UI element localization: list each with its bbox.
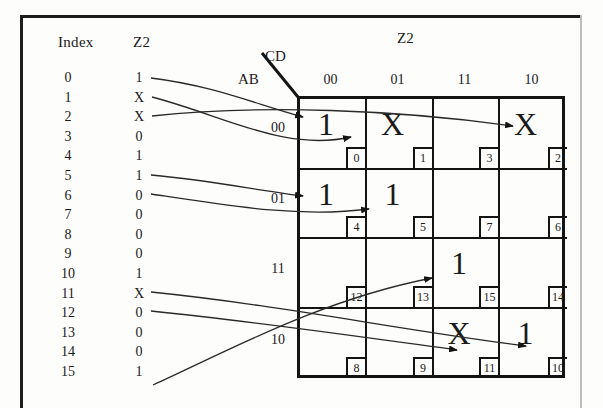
kmap-cell-minterm: 7 — [479, 216, 498, 237]
index-table-row: 2X — [45, 107, 175, 127]
index-value: 0 — [131, 127, 147, 147]
kmap-cell-minterm: 12 — [346, 286, 365, 307]
index-table-row: 30 — [45, 127, 175, 147]
kmap-cell: 3 — [433, 99, 500, 170]
kmap-column-header: 11 — [431, 72, 498, 88]
kmap-row-header: 01 — [265, 191, 291, 207]
index-value: 1 — [131, 146, 147, 166]
index-value: 0 — [131, 205, 147, 225]
index-table-row: 80 — [45, 225, 175, 245]
index-number: 13 — [45, 323, 91, 343]
index-number: 15 — [45, 362, 91, 382]
index-table-row: 90 — [45, 244, 175, 264]
figure-page: Index Z2 011X2X3041516070809010111X12013… — [0, 0, 603, 408]
kmap-title: Z2 — [397, 30, 414, 47]
kmap-cell: 9 — [367, 308, 434, 379]
kmap-row-variable-label: AB — [238, 71, 259, 88]
kmap-cell: 8 — [300, 308, 367, 379]
kmap-column-header: 00 — [297, 72, 364, 88]
index-number: 5 — [45, 166, 91, 186]
kmap-cell-minterm: 1 — [413, 147, 432, 168]
kmap-cell: 14 — [500, 238, 567, 309]
index-table-row: 120 — [45, 303, 175, 323]
kmap-cell-minterm: 10 — [548, 357, 567, 378]
kmap-row-header: 11 — [265, 261, 291, 277]
kmap-cell: 10 — [300, 99, 367, 170]
index-value: 1 — [131, 68, 147, 88]
kmap-cell-minterm: 14 — [548, 286, 567, 307]
index-table-body: 011X2X3041516070809010111X120130140151 — [45, 68, 175, 382]
kmap-cell-minterm: 5 — [413, 216, 432, 237]
kmap-cell-minterm: 2 — [548, 147, 567, 168]
kmap-cell: 13 — [367, 238, 434, 309]
index-value: 0 — [131, 323, 147, 343]
kmap-cell-minterm: 0 — [346, 147, 365, 168]
index-table-row: 130 — [45, 323, 175, 343]
kmap-cell-value: 1 — [300, 177, 352, 211]
index-number: 14 — [45, 342, 91, 362]
kmap-cell-minterm: 6 — [548, 216, 567, 237]
kmap-cell: 12 — [300, 238, 367, 309]
index-table-row: 1X — [45, 88, 175, 108]
index-value: 1 — [131, 362, 147, 382]
kmap-cell: 115 — [433, 238, 500, 309]
index-table-row: 11X — [45, 284, 175, 304]
kmap-cell: 7 — [433, 169, 500, 240]
kmap-row-header: 00 — [265, 120, 291, 136]
kmap-cell: X11 — [433, 308, 500, 379]
index-value: 0 — [131, 186, 147, 206]
index-table-row: 140 — [45, 342, 175, 362]
index-number: 2 — [45, 107, 91, 127]
kmap-cell-minterm: 3 — [479, 147, 498, 168]
index-value: 0 — [131, 342, 147, 362]
index-column-header: Index — [58, 34, 94, 51]
index-number: 4 — [45, 146, 91, 166]
kmap-cell: X1 — [367, 99, 434, 170]
kmap-column-variable-label: CD — [265, 48, 286, 65]
value-column-header: Z2 — [133, 34, 150, 51]
kmap-cell: 14 — [300, 169, 367, 240]
kmap-column-header: 01 — [364, 72, 431, 88]
kmap-cell-minterm: 15 — [479, 286, 498, 307]
kmap-cell-minterm: 8 — [346, 357, 365, 378]
kmap-cell-value: 1 — [367, 177, 419, 211]
index-number: 10 — [45, 264, 91, 284]
index-table-row: 60 — [45, 186, 175, 206]
index-number: 6 — [45, 186, 91, 206]
index-value: 0 — [131, 244, 147, 264]
kmap-cell-value: X — [367, 107, 419, 141]
index-number: 12 — [45, 303, 91, 323]
kmap-cell-value: X — [433, 316, 485, 350]
kmap-cell: 110 — [500, 308, 567, 379]
index-table-row: 01 — [45, 68, 175, 88]
index-value: X — [131, 284, 147, 304]
kmap-cell-value: X — [500, 107, 552, 141]
index-table-row: 41 — [45, 146, 175, 166]
index-table-row: 51 — [45, 166, 175, 186]
index-value: 1 — [131, 264, 147, 284]
index-value: 0 — [131, 303, 147, 323]
kmap-cell: X2 — [500, 99, 567, 170]
index-number: 8 — [45, 225, 91, 245]
kmap-cell-minterm: 4 — [346, 216, 365, 237]
index-value: X — [131, 107, 147, 127]
kmap-cell-minterm: 13 — [413, 286, 432, 307]
index-value: 0 — [131, 225, 147, 245]
index-value: 1 — [131, 166, 147, 186]
kmap-column-header: 10 — [498, 72, 565, 88]
index-number: 1 — [45, 88, 91, 108]
kmap-cell: 6 — [500, 169, 567, 240]
index-table-row: 151 — [45, 362, 175, 382]
index-table-row: 101 — [45, 264, 175, 284]
kmap-row-header: 10 — [265, 332, 291, 348]
kmap-cell-value: 1 — [433, 246, 485, 280]
index-number: 7 — [45, 205, 91, 225]
kmap-cell-value: 1 — [300, 107, 352, 141]
index-table-row: 70 — [45, 205, 175, 225]
kmap-cell: 15 — [367, 169, 434, 240]
index-number: 0 — [45, 68, 91, 88]
index-number: 11 — [45, 284, 91, 304]
page-border-right — [580, 15, 582, 408]
index-number: 9 — [45, 244, 91, 264]
karnaugh-map-grid: 10X13X214157612131151489X11110 — [297, 96, 565, 378]
